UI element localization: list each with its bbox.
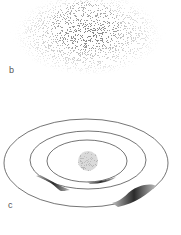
panel-label-b: b: [9, 65, 14, 75]
wave-middle-left: [36, 175, 70, 191]
wave-outer-right: [112, 185, 156, 207]
particle-cloud: [10, 0, 166, 74]
panel-label-c: c: [8, 200, 13, 210]
figure-canvas: [0, 0, 181, 235]
wave-segments: [36, 175, 156, 207]
